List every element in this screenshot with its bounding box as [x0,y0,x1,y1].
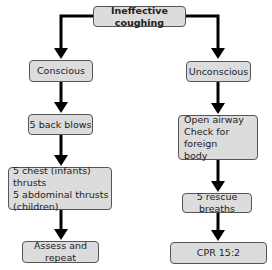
unconscious-node: Unconscious [186,61,251,82]
arrow-to-unconscious [186,16,218,50]
assess-repeat-label: Assess and repeat [23,240,98,264]
thrusts-label: 5 chest (infants) thrusts 5 abdominal th… [13,165,111,213]
unconscious-label: Unconscious [189,66,249,78]
back-blows-node: 5 back blows [28,114,93,135]
arrow-to-conscious [61,16,93,50]
thrusts-node: 5 chest (infants) thrusts 5 abdominal th… [8,167,112,210]
open-airway-label: Open airway Check for foreign body [184,114,257,162]
back-blows-label: 5 back blows [30,119,92,131]
rescue-breaths-node: 5 rescue breaths [182,193,252,213]
open-airway-node: Open airway Check for foreign body [178,115,258,160]
assess-repeat-node: Assess and repeat [22,241,99,263]
cpr-label: CPR 15:2 [197,247,240,259]
start-node-label: Ineffective coughing [94,5,185,29]
conscious-node: Conscious [29,60,93,82]
conscious-label: Conscious [37,65,85,77]
rescue-breaths-label: 5 rescue breaths [183,191,251,215]
start-node: Ineffective coughing [93,6,186,27]
cpr-node: CPR 15:2 [170,242,267,264]
